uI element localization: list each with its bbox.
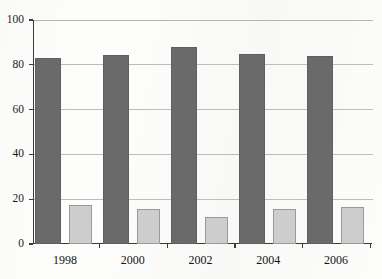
x-tick-mark-2004 [302, 244, 303, 248]
plot-area [33, 20, 372, 244]
bar-2006-series-1 [307, 56, 333, 244]
bar-1998-series-1 [35, 58, 61, 244]
y-tick-label-40: 40 [0, 148, 24, 160]
bar-1998-series-2 [69, 205, 92, 244]
y-tick-label-20: 20 [0, 193, 24, 205]
y-tick-label-0: 0 [0, 238, 24, 250]
bar-2004-series-1 [239, 54, 265, 244]
x-tick-mark-1998 [99, 244, 100, 248]
bar-2000-series-2 [137, 209, 160, 244]
y-tick-label-100: 100 [0, 14, 24, 26]
x-tick-label-2000: 2000 [103, 254, 163, 266]
bar-2002-series-1 [171, 47, 197, 244]
bar-2002-series-2 [205, 217, 228, 244]
x-tick-label-2006: 2006 [306, 254, 366, 266]
bar-2006-series-2 [341, 207, 364, 244]
x-tick-mark-2000 [167, 244, 168, 248]
bar-2000-series-1 [103, 55, 129, 244]
x-tick-label-2004: 2004 [238, 254, 298, 266]
bar-chart: 020406080100 19982000200220042006 [0, 0, 382, 279]
x-tick-label-1998: 1998 [35, 254, 95, 266]
x-tick-mark-2006 [370, 244, 371, 248]
gridline-100 [34, 20, 373, 21]
bar-2004-series-2 [273, 209, 296, 244]
y-tick-label-60: 60 [0, 104, 24, 116]
x-tick-mark-2002 [234, 244, 235, 248]
y-tick-label-80: 80 [0, 59, 24, 71]
x-tick-label-2002: 2002 [171, 254, 231, 266]
